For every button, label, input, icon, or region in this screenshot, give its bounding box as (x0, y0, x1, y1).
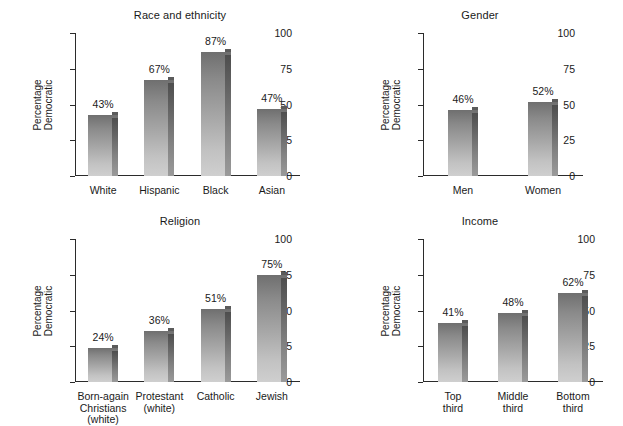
plot-area: 025507510046%52% (423, 33, 583, 176)
y-axis-tick-label: 0 (569, 171, 575, 181)
y-axis-tick-label: 75 (280, 64, 292, 74)
bar-value-label: 48% (502, 296, 523, 308)
panel-title: Race and ethnicity (60, 9, 300, 21)
y-axis-tick-label: 100 (274, 28, 292, 38)
y-axis-tick-label: 0 (286, 171, 292, 181)
bar[interactable]: 36% (144, 331, 174, 382)
bar-value-label: 52% (532, 85, 553, 97)
x-axis-category-label: Women (495, 185, 591, 197)
bar-value-label: 47% (261, 92, 282, 104)
y-axis-tick (418, 69, 423, 70)
y-axis-tick-label: 0 (589, 377, 595, 387)
bar[interactable]: 52% (528, 102, 558, 176)
y-axis-line (75, 239, 76, 382)
y-axis-tick-label: 100 (274, 234, 292, 244)
x-axis-category-label: Bottom third (535, 391, 611, 414)
y-axis-tick (70, 311, 75, 312)
bar-value-label: 75% (261, 258, 282, 270)
y-axis-tick (70, 140, 75, 141)
y-axis-tick-label: 50 (563, 100, 575, 110)
y-axis-tick (70, 105, 75, 106)
y-axis-tick-label: 75 (583, 270, 595, 280)
y-axis-label: PercentageDemocratic (31, 33, 53, 176)
y-axis-tick (418, 275, 423, 276)
bar[interactable]: 43% (88, 115, 118, 176)
plot-area: 025507510024%36%51%75% (75, 239, 300, 382)
x-axis-line (423, 175, 583, 176)
y-axis-tick (418, 346, 423, 347)
y-axis-tick (418, 140, 423, 141)
y-axis-tick (70, 275, 75, 276)
y-axis-line (75, 33, 76, 176)
y-axis-label-line: Democratic (390, 79, 401, 130)
panel-income: Income PercentageDemocratic 025507510041… (320, 206, 623, 412)
y-axis-tick-label: 0 (286, 377, 292, 387)
y-axis-tick (70, 176, 75, 177)
bar[interactable]: 87% (201, 52, 231, 176)
y-axis-label-line: Democratic (42, 79, 53, 130)
y-axis-tick (418, 382, 423, 383)
y-axis-label: PercentageDemocratic (31, 239, 53, 382)
x-axis-category-label: Jewish (236, 391, 308, 403)
y-axis-tick (70, 33, 75, 34)
bar[interactable]: 47% (257, 109, 287, 176)
bar-value-label: 67% (149, 63, 170, 75)
bar[interactable]: 51% (201, 309, 231, 382)
x-axis-category-label: Asian (236, 185, 308, 197)
panel-title: Income (360, 215, 600, 227)
bar-value-label: 24% (93, 331, 114, 343)
y-axis-tick (70, 69, 75, 70)
y-axis-line (423, 33, 424, 176)
y-axis-tick-label: 25 (563, 135, 575, 145)
bar-value-label: 41% (442, 306, 463, 318)
y-axis-tick (418, 176, 423, 177)
y-axis-tick (418, 105, 423, 106)
bar[interactable]: 62% (558, 293, 588, 382)
y-axis-label-line: Percentage (379, 79, 390, 130)
y-axis-label-line: Percentage (31, 285, 42, 336)
y-axis-tick-label: 75 (563, 64, 575, 74)
panel-gender: Gender PercentageDemocratic 025507510046… (320, 0, 623, 206)
panel-religion: Religion PercentageDemocratic 0255075100… (0, 206, 320, 412)
bar[interactable]: 67% (144, 80, 174, 176)
y-axis-label-line: Democratic (390, 285, 401, 336)
bar-value-label: 36% (149, 314, 170, 326)
y-axis-tick (70, 382, 75, 383)
bar-value-label: 87% (205, 35, 226, 47)
y-axis-tick (70, 239, 75, 240)
bar[interactable]: 46% (448, 110, 478, 176)
bar[interactable]: 75% (257, 275, 287, 382)
bar-value-label: 51% (205, 292, 226, 304)
bar-value-label: 46% (452, 93, 473, 105)
bar[interactable]: 41% (438, 323, 468, 382)
y-axis-tick (418, 239, 423, 240)
y-axis-label-line: Democratic (42, 285, 53, 336)
y-axis-label-line: Percentage (379, 285, 390, 336)
plot-area: 025507510043%67%87%47% (75, 33, 300, 176)
y-axis-line (423, 239, 424, 382)
panel-title: Religion (60, 215, 300, 227)
bar-value-label: 62% (562, 276, 583, 288)
y-axis-tick (418, 311, 423, 312)
y-axis-tick (418, 33, 423, 34)
y-axis-tick-label: 100 (557, 28, 575, 38)
panel-title: Gender (360, 9, 600, 21)
bar-value-label: 43% (93, 98, 114, 110)
plot-area: 025507510041%48%62% (423, 239, 603, 382)
y-axis-tick (70, 346, 75, 347)
y-axis-label: PercentageDemocratic (379, 239, 401, 382)
y-axis-tick-label: 100 (577, 234, 595, 244)
bar[interactable]: 24% (88, 348, 118, 382)
panel-race-and-ethnicity: Race and ethnicity PercentageDemocratic … (0, 0, 320, 206)
bar[interactable]: 48% (498, 313, 528, 382)
y-axis-label-line: Percentage (31, 79, 42, 130)
y-axis-label: PercentageDemocratic (379, 33, 401, 176)
